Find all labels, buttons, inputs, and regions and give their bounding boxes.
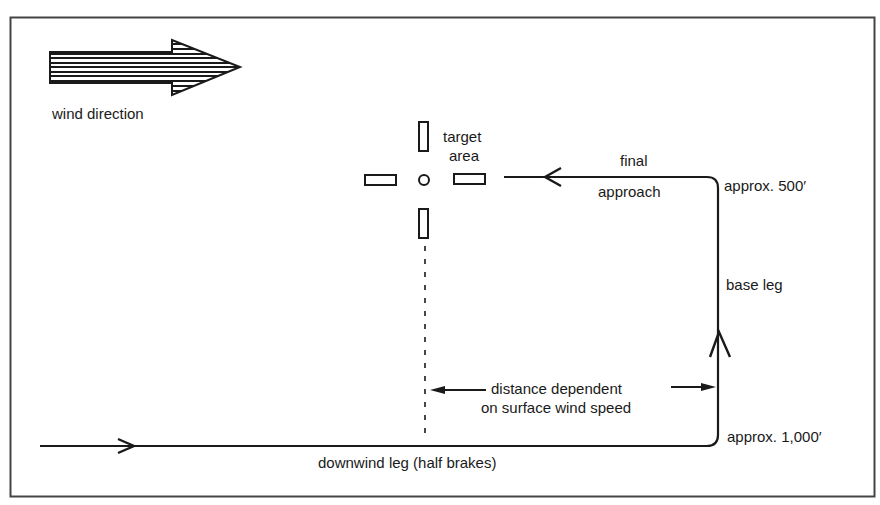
final-approach-label-line2: approach xyxy=(598,183,661,200)
target-marker-top xyxy=(419,122,428,151)
downwind-leg-label: downwind leg (half brakes) xyxy=(318,454,496,471)
target-marker-right xyxy=(454,174,485,184)
base-leg-label: base leg xyxy=(726,276,783,293)
downwind-altitude-label: approx. 1,000′ xyxy=(727,428,822,445)
base-direction-chevron-icon xyxy=(710,332,730,357)
target-marker-left xyxy=(365,175,396,185)
target-marker-bottom xyxy=(419,209,428,238)
target-center-icon xyxy=(419,175,429,185)
dimension-arrow-left-icon xyxy=(430,386,445,394)
target-area-label-line1: target xyxy=(443,128,482,145)
wind-direction-arrow-icon xyxy=(40,40,250,95)
diagram-frame xyxy=(11,18,875,497)
landing-pattern-diagram: wind direction target area final approac… xyxy=(0,0,880,505)
distance-label-line2: on surface wind speed xyxy=(481,399,631,416)
distance-label-line1: distance dependent xyxy=(491,380,623,397)
dimension-arrow-right-icon xyxy=(701,383,716,391)
wind-direction-label: wind direction xyxy=(51,105,144,122)
final-approach-label-line1: final xyxy=(620,152,648,169)
final-altitude-label: approx. 500′ xyxy=(724,177,806,194)
target-area-label-line2: area xyxy=(449,147,480,164)
